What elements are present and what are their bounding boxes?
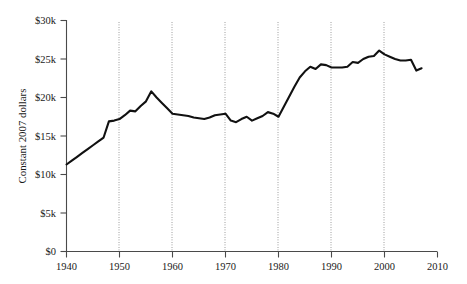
y-tick-label-20k: $20k	[35, 92, 57, 103]
gridlines	[119, 22, 384, 251]
x-tick-label-1980: 1980	[268, 261, 289, 272]
y-axis-title: Constant 2007 dollars	[16, 89, 28, 184]
x-tick-label-1990: 1990	[321, 261, 342, 272]
y-tick-label-0: $0	[46, 246, 57, 257]
x-tick-labels: 1940 1950 1960 1970 1980 1990 2000 2010	[56, 261, 448, 272]
x-tick-label-1960: 1960	[162, 261, 183, 272]
y-tick-label-15k: $15k	[35, 131, 57, 142]
y-tick-label-25k: $25k	[35, 54, 57, 65]
y-tick-label-10k: $10k	[35, 169, 57, 180]
x-tick-label-1940: 1940	[56, 261, 77, 272]
x-tick-label-1970: 1970	[215, 261, 236, 272]
data-series-line	[67, 51, 422, 165]
y-tick-label-5k: $5k	[40, 208, 57, 219]
line-chart: $30k $25k $20k $15k $10k $5k $0 1940 195…	[0, 0, 467, 284]
y-tick-labels: $30k $25k $20k $15k $10k $5k $0	[35, 15, 57, 257]
x-tick-label-2010: 2010	[427, 261, 448, 272]
x-tick-label-2000: 2000	[374, 261, 395, 272]
y-tick-label-30k: $30k	[35, 15, 57, 26]
axes	[61, 20, 438, 258]
chart-container: $30k $25k $20k $15k $10k $5k $0 1940 195…	[0, 0, 467, 284]
x-tick-label-1950: 1950	[109, 261, 130, 272]
